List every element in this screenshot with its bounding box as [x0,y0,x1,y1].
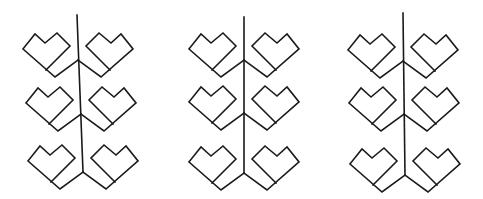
motif-canvas [0,0,483,199]
heart-motif-left [189,33,244,77]
stem-line [403,13,405,175]
heart-motif-left [350,148,405,192]
heart-motif-left [23,33,78,77]
heart-motif-right [81,87,136,131]
heart-motif-left [189,86,244,130]
heart-motif-right [405,148,460,192]
heart-motif-left [349,87,404,131]
heart-motif-left [348,34,403,78]
figure-2 [189,17,299,190]
heart-motif-right [244,33,299,77]
heart-motif-left [189,146,244,190]
heart-motif-right [244,86,299,130]
heart-branch-diagram [0,0,483,199]
heart-motif-right [404,87,459,131]
figure-1 [23,15,138,189]
stem-line [77,15,83,172]
heart-motif-right [83,145,138,189]
heart-motif-right [244,146,299,190]
heart-motif-right [403,34,458,78]
heart-motif-left [28,145,83,189]
heart-motif-right [78,33,133,77]
heart-motif-left [26,87,81,131]
figure-3 [348,13,460,192]
